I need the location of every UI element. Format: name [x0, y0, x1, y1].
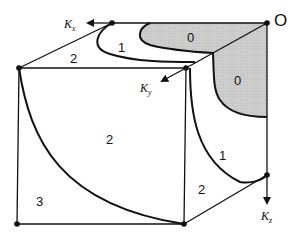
region-label-3-front: 3 — [36, 194, 43, 209]
region-label-2-front: 2 — [106, 132, 113, 147]
edge-front-left — [17, 68, 19, 224]
origin-label: O — [274, 11, 287, 30]
vertex-front-top-left — [16, 65, 22, 71]
region-label-0-right: 0 — [234, 73, 241, 88]
region-label-2-right: 2 — [198, 182, 205, 197]
region-label-0-top: 0 — [187, 30, 194, 45]
cube-diagram: Kx Ky Kz O 0 0 1 1 2 2 2 3 — [0, 0, 294, 242]
boundary-2-3-front — [19, 68, 184, 224]
vertex-front-bottom-left — [14, 221, 20, 227]
axis-ky-label: Ky — [139, 81, 152, 97]
edge-front-right — [184, 68, 186, 224]
axis-kz-label: Kz — [260, 209, 273, 225]
axis-ky-arrow — [162, 68, 186, 81]
region-label-2-top: 2 — [70, 51, 77, 66]
region-label-1-right: 1 — [219, 148, 226, 163]
axis-kx-label: Kx — [63, 17, 76, 33]
vertex-front-bottom-right — [181, 221, 187, 227]
vertex-origin — [264, 20, 270, 26]
region-label-1-top: 1 — [118, 40, 125, 55]
